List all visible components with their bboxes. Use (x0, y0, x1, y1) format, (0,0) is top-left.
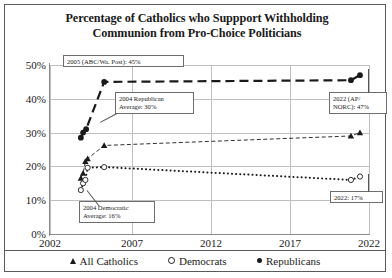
data-point (357, 174, 362, 179)
x-axis-line (49, 234, 370, 235)
y-tick-40: 40% (6, 93, 46, 105)
y-tick-30: 30% (6, 127, 46, 139)
chart-title: Percentage of Catholics who Suppport Wit… (23, 11, 371, 40)
annotation-2005-abc: 2005 (ABC/Wa. Post): 45% (63, 55, 184, 67)
annotation-2022-democrats: 2022: 17% (330, 191, 383, 203)
data-point (101, 79, 107, 85)
legend-item-democrats[interactable]: Democrats (168, 255, 227, 267)
y-tick-20: 20% (6, 160, 46, 172)
chart-title-line-1: Percentage of Catholics who Suppport Wit… (23, 11, 371, 26)
x-tick-2002: 2002 (20, 237, 80, 249)
annotation-2022-apnorc: 2022 (AP/ NORC): 47% (329, 92, 387, 114)
data-point (101, 142, 107, 148)
legend-item-republicans[interactable]: Republicans (257, 255, 321, 267)
legend-label-republicans: Republicans (266, 255, 320, 267)
data-point (83, 177, 88, 182)
legend-label-democrats: Democrats (179, 255, 227, 267)
data-point (85, 165, 90, 170)
annotation-2004-republican: 2004 Republican Average: 30% (115, 92, 194, 114)
open-circle-marker-icon (168, 257, 175, 264)
data-point (348, 177, 353, 182)
data-point (78, 135, 84, 141)
series-line-democrats (81, 167, 360, 190)
leader-2022-apnorc (368, 69, 369, 93)
chart-frame: Percentage of Catholics who Suppport Wit… (4, 4, 386, 272)
y-tick-50: 50% (6, 59, 46, 71)
gridline-2022 (369, 65, 370, 234)
chart-title-line-2: Communion from Pro-Choice Politicians (23, 26, 371, 41)
x-tick-2017: 2017 (260, 237, 320, 249)
x-tick-2022: 2022 (339, 237, 392, 249)
x-tick-2012: 2012 (181, 237, 241, 249)
series-line-all-catholics (81, 133, 360, 179)
legend-label-all-catholics: All Catholics (80, 255, 138, 267)
y-tick-10: 10% (6, 194, 46, 206)
triangle-marker-icon (70, 258, 76, 264)
x-tick-2007: 2007 (102, 237, 162, 249)
data-point (83, 126, 89, 132)
annotation-2004-democratic: 2004 Democratic Average: 16% (79, 201, 155, 223)
chart-legend: All Catholics Democrats Republicans (4, 250, 386, 270)
data-point (348, 77, 354, 83)
filled-circle-marker-icon (257, 258, 262, 263)
data-point (357, 129, 363, 135)
legend-item-all-catholics[interactable]: All Catholics (70, 255, 138, 267)
data-point (102, 164, 107, 169)
data-point (357, 72, 363, 78)
leader-2022-democrats (368, 174, 369, 192)
data-point (78, 187, 83, 192)
